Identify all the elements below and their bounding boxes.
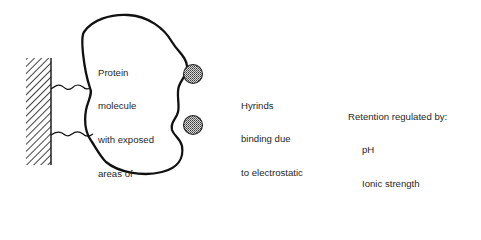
- binding-label-line: to electrostatic: [241, 167, 303, 178]
- retention-factor-ionic-strength: Ionic strength: [348, 178, 447, 189]
- protein-label-line: molecule: [98, 100, 154, 111]
- protein-label-line: Protein: [98, 67, 154, 78]
- protein-label-line: with exposed: [98, 134, 154, 145]
- retention-factor-ph: pH: [348, 144, 447, 155]
- hatched-wall: [26, 58, 51, 165]
- binding-label-line: Hyrinds: [241, 100, 303, 111]
- retention-factors-block: Retention regulated by: pH Ionic strengt…: [348, 88, 447, 196]
- protein-description-label: Protein molecule with exposed areas of i…: [98, 44, 154, 196]
- retention-heading: Retention regulated by:: [348, 111, 447, 122]
- binding-description-label: Hyrinds binding due to electrostatic and…: [241, 77, 303, 196]
- stippled-ligand-top: [184, 65, 203, 84]
- protein-label-line: areas of: [98, 168, 154, 179]
- wavy-linker-top: [51, 85, 90, 90]
- binding-label-line: binding due: [241, 133, 303, 144]
- stippled-ligand-bottom: [184, 116, 203, 135]
